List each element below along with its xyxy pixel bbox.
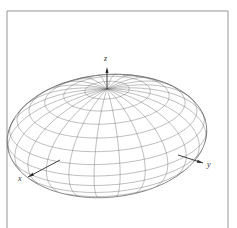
- ellipsoid-surface: [7, 74, 207, 197]
- ellipsoid-figure: z x y: [0, 0, 237, 228]
- y-axis-arrowhead-icon: [197, 160, 203, 163]
- x-axis-label: x: [17, 174, 22, 183]
- y-axis-label: y: [206, 160, 211, 169]
- z-axis-label: z: [103, 54, 108, 63]
- ellipsoid-outline: [7, 74, 206, 197]
- z-axis-arrowhead-icon: [105, 67, 108, 73]
